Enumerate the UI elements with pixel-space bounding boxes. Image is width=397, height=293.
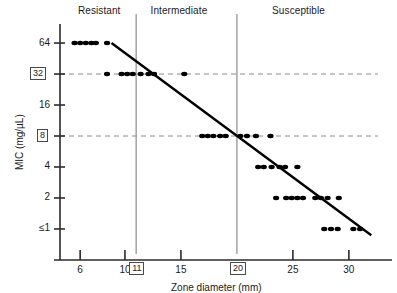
plot-canvas xyxy=(0,0,397,293)
y-tick-label: 4 xyxy=(44,160,50,171)
axis-ticks xyxy=(54,43,349,260)
x-axis-title: Zone diameter (mm) xyxy=(171,282,262,293)
y-breakpoint-label: 8 xyxy=(37,129,48,142)
y-breakpoint-label: 32 xyxy=(30,67,46,80)
category-header-intermediate: Intermediate xyxy=(151,5,208,16)
category-header-susceptible: Susceptible xyxy=(272,5,325,16)
x-breakpoint-label: 11 xyxy=(129,262,144,275)
breakpoint-lines xyxy=(136,14,237,254)
x-tick-label: 30 xyxy=(329,264,369,275)
gridlines xyxy=(60,74,378,136)
y-tick-label: ≤1 xyxy=(39,222,50,233)
y-tick-label: 64 xyxy=(39,37,50,48)
regression-line xyxy=(112,43,372,235)
mic-zone-diameter-scatter-plot: Resistant Intermediate Susceptible MIC (… xyxy=(0,0,397,293)
x-tick-label: 6 xyxy=(60,264,100,275)
category-header-resistant: Resistant xyxy=(78,5,121,16)
y-tick-label: 16 xyxy=(39,99,50,110)
x-tick-label: 15 xyxy=(161,264,201,275)
x-breakpoint-label: 20 xyxy=(230,262,246,275)
axis-lines xyxy=(54,24,392,260)
y-tick-label: 2 xyxy=(44,191,50,202)
x-tick-label: 25 xyxy=(273,264,313,275)
y-axis-title: MIC (mg/µL) xyxy=(14,114,25,170)
